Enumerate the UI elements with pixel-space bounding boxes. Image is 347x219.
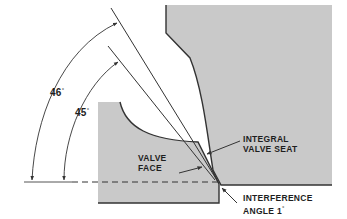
valve-face-label: VALVE FACE xyxy=(138,153,167,173)
degree-symbol: ° xyxy=(282,205,285,211)
angle-45-label: 45° xyxy=(75,105,89,118)
interference-angle-text: ANGLE 1 xyxy=(243,206,282,216)
angle-46-label: 46° xyxy=(50,85,64,98)
degree-symbol: ° xyxy=(62,87,65,93)
leader-interference-angle xyxy=(222,188,237,203)
integral-valve-seat-label: INTEGRAL VALVE SEAT xyxy=(243,134,297,154)
angle-46-value: 46 xyxy=(50,87,62,98)
integral-valve-seat-line-1: INTEGRAL xyxy=(243,134,297,144)
degree-symbol: ° xyxy=(87,107,90,113)
valve-face-line-1: VALVE xyxy=(138,153,167,163)
interference-angle-line-1: INTERFERENCE xyxy=(243,193,313,203)
valve-face-line-2: FACE xyxy=(138,163,167,173)
interference-angle-line-2: ANGLE 1° xyxy=(243,203,313,216)
interference-angle-label: INTERFERENCE ANGLE 1° xyxy=(243,193,313,216)
valve-seat-diagram xyxy=(0,0,347,219)
integral-valve-seat-line-2: VALVE SEAT xyxy=(243,144,297,154)
angle-45-value: 45 xyxy=(75,107,87,118)
